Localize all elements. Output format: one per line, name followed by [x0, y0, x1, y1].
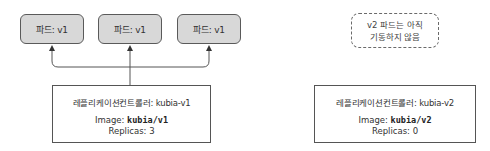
image-label: Image: [358, 115, 390, 125]
pod-label: 파드: v1 [193, 23, 225, 36]
pod-label: 파드: v1 [36, 23, 68, 36]
pod-label: 파드: v1 [114, 23, 146, 36]
connector-branch-right [130, 48, 209, 67]
image-value: kubia/v2 [391, 115, 432, 125]
pod-v1-3: 파드: v1 [177, 14, 241, 44]
pending-v2-pods-note: v2 파드는 아직 기동하지 않음 [351, 13, 439, 48]
controller-image: Image: kubia/v1 [95, 115, 168, 126]
pod-v1-1: 파드: v1 [20, 14, 84, 44]
controller-image: Image: kubia/v2 [358, 115, 431, 126]
pod-v1-2: 파드: v1 [98, 14, 162, 44]
controller-replicas: Replicas: 3 [108, 126, 154, 137]
controller-name: 레플리케이션컨트롤러: kubia-v2 [336, 96, 454, 108]
controller-name: 레플리케이션컨트롤러: kubia-v1 [73, 96, 191, 108]
image-label: Image: [95, 115, 127, 125]
pending-note-line2: 기동하지 않음 [370, 31, 421, 43]
controller-replicas: Replicas: 0 [372, 126, 418, 137]
replication-controller-v2: 레플리케이션컨트롤러: kubia-v2 Image: kubia/v2 Rep… [314, 85, 476, 143]
image-value: kubia/v1 [127, 115, 168, 125]
replication-controller-v1: 레플리케이션컨트롤러: kubia-v1 Image: kubia/v1 Rep… [52, 85, 211, 143]
pending-note-line1: v2 파드는 아직 [367, 19, 423, 31]
connector-branch-left [52, 48, 130, 67]
